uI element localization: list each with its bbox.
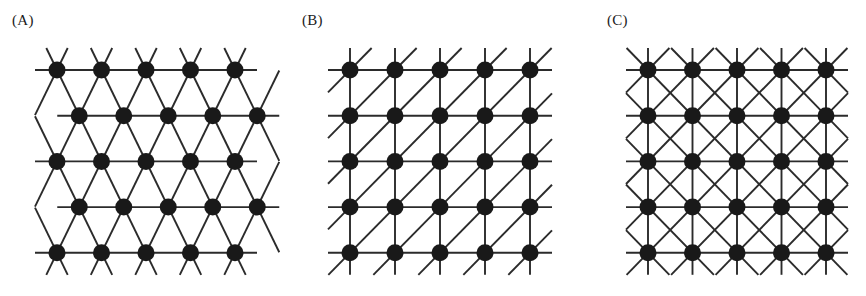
lattice-site <box>684 244 701 261</box>
lattice-site <box>773 199 790 216</box>
lattice-site <box>684 153 701 170</box>
lattice-site <box>684 107 701 124</box>
lattice-site <box>773 244 790 261</box>
panel-c-lattice <box>0 0 866 296</box>
lattice-site <box>640 244 657 261</box>
lattice-site <box>640 153 657 170</box>
lattice-site <box>729 62 746 79</box>
lattice-site <box>818 153 835 170</box>
lattice-site <box>818 199 835 216</box>
lattice-site <box>773 107 790 124</box>
lattice-site <box>684 62 701 79</box>
lattice-site <box>818 244 835 261</box>
lattice-site <box>818 107 835 124</box>
figure-root: (A) (B) (C) <box>0 0 866 296</box>
lattice-site <box>684 199 701 216</box>
lattice-site <box>729 107 746 124</box>
lattice-site <box>773 62 790 79</box>
lattice-site <box>773 153 790 170</box>
lattice-site <box>818 62 835 79</box>
lattice-site <box>640 62 657 79</box>
lattice-site <box>729 244 746 261</box>
lattice-site <box>640 107 657 124</box>
lattice-site <box>640 199 657 216</box>
lattice-site <box>729 153 746 170</box>
lattice-site <box>729 199 746 216</box>
